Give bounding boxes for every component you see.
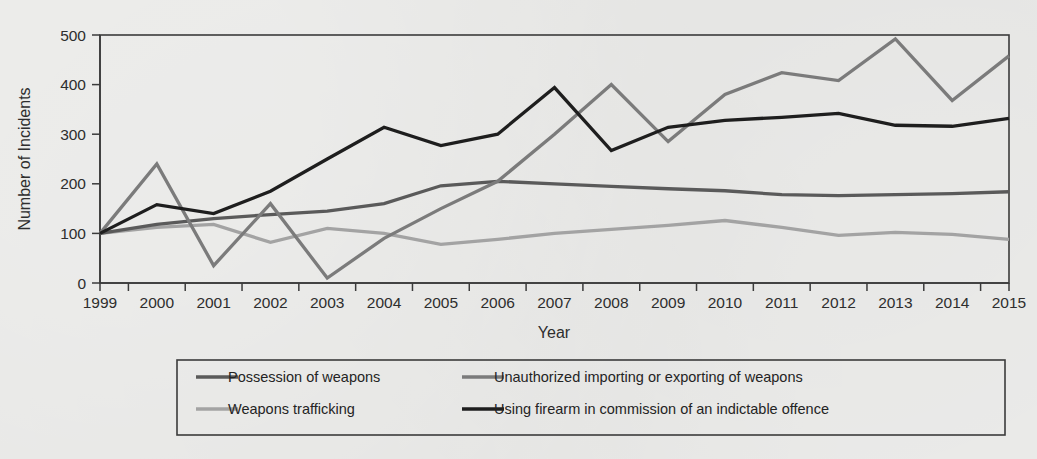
legend-label: Possession of weapons [228, 369, 380, 385]
y-tick-label: 300 [60, 126, 86, 143]
x-tick-label: 2010 [708, 294, 743, 311]
series-line-0 [100, 181, 1009, 233]
x-tick-label: 2007 [537, 294, 571, 311]
x-tick-label: 2009 [651, 294, 685, 311]
y-axis-title: Number of Incidents [16, 87, 33, 230]
chart-legend: Possession of weaponsUnauthorized import… [177, 360, 1005, 435]
series-line-1 [100, 39, 1009, 278]
y-axis: 0100200300400500 [60, 27, 100, 292]
x-tick-label: 2014 [935, 294, 970, 311]
x-tick-label: 2006 [480, 294, 514, 311]
line-chart-figure: 0100200300400500 19992000200120022003200… [0, 0, 1037, 459]
x-tick-label: 2002 [253, 294, 287, 311]
x-tick-label: 1999 [83, 294, 117, 311]
x-tick-label: 2001 [196, 294, 230, 311]
x-tick-label: 2015 [992, 294, 1026, 311]
x-tick-label: 2013 [878, 294, 912, 311]
legend-item[interactable]: Possession of weapons [196, 369, 380, 385]
y-tick-label: 200 [60, 175, 86, 192]
y-tick-label: 0 [77, 275, 86, 292]
legend-item[interactable]: Weapons trafficking [196, 401, 355, 417]
incidents-by-year-line-chart: 0100200300400500 19992000200120022003200… [0, 0, 1037, 459]
x-tick-label: 2012 [821, 294, 855, 311]
x-tick-label: 2000 [140, 294, 175, 311]
plot-area-frame [100, 35, 1009, 283]
legend-label: Unauthorized importing or exporting of w… [494, 369, 803, 385]
legend-item[interactable]: Using firearm in commission of an indict… [462, 401, 829, 417]
x-tick-label: 2011 [765, 294, 798, 311]
x-tick-label: 2003 [310, 294, 344, 311]
x-tick-label: 2004 [367, 294, 402, 311]
x-tick-label: 2008 [594, 294, 628, 311]
x-axis-title: Year [538, 324, 571, 341]
legend-label: Weapons trafficking [228, 401, 355, 417]
y-tick-label: 100 [60, 225, 86, 242]
x-axis: 1999200020012002200320042005200620072008… [83, 283, 1026, 311]
series-line-3 [100, 88, 1009, 234]
x-tick-label: 2005 [424, 294, 458, 311]
y-tick-label: 500 [60, 27, 86, 44]
legend-item[interactable]: Unauthorized importing or exporting of w… [462, 369, 803, 385]
legend-label: Using firearm in commission of an indict… [494, 401, 829, 417]
y-tick-label: 400 [60, 76, 86, 93]
data-series-group [100, 39, 1009, 278]
